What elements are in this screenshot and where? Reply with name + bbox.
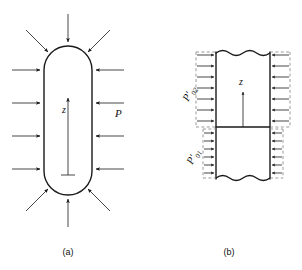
figure-container: z P [0, 0, 302, 270]
panel-b-upper-right-load [270, 52, 290, 127]
panel-b-z-label: z [238, 76, 243, 87]
panel-b-caption: (b) [224, 247, 235, 257]
panel-a-caption: (a) [63, 247, 74, 257]
panel-b-lower-pressure-label: P′01 [184, 147, 204, 168]
panel-b-lower-left-load [203, 129, 216, 178]
panel-a-z-label: z [61, 104, 66, 115]
panel-b-upper-left-load [196, 52, 216, 127]
panel-a-group: z P [12, 14, 124, 257]
column-top-wavy-edge [216, 51, 270, 56]
panel-b-group: z [180, 51, 290, 258]
panel-b-upper-pressure-label: P′02 [180, 83, 200, 105]
svg-text:P′02: P′02 [180, 83, 200, 105]
panel-b-lower-right-load [270, 129, 283, 178]
panel-a-pressure-label: P [114, 107, 122, 119]
panel-a-left-arrows [12, 70, 40, 169]
diagram-canvas: z P [0, 0, 302, 270]
panel-a-right-arrows [96, 70, 124, 169]
column-bottom-wavy-edge [216, 176, 270, 181]
svg-text:P′01: P′01 [184, 147, 204, 168]
